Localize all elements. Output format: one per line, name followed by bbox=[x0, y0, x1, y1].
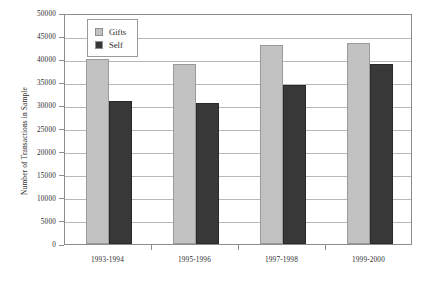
bar-gifts bbox=[173, 64, 196, 244]
legend-label-gifts: Gifts bbox=[109, 27, 126, 37]
y-axis-tick-label: 5000 bbox=[0, 218, 56, 226]
bar-group bbox=[171, 15, 221, 244]
y-axis-tick-label: 35000 bbox=[0, 79, 56, 87]
legend-swatch-self bbox=[95, 41, 103, 49]
x-axis-tick-label: 1993-1994 bbox=[58, 256, 158, 264]
y-axis-tick-label: 10000 bbox=[0, 195, 56, 203]
y-axis-tick-label: 0 bbox=[0, 241, 56, 249]
y-axis-tick-label: 50000 bbox=[0, 10, 56, 18]
y-axis-tick-label: 15000 bbox=[0, 172, 56, 180]
legend-item-self: Self bbox=[95, 38, 126, 51]
legend-swatch-gifts bbox=[95, 28, 103, 36]
bar-group bbox=[258, 15, 308, 244]
y-axis-tick-label: 20000 bbox=[0, 149, 56, 157]
bar-self bbox=[283, 85, 306, 244]
bar-gifts bbox=[260, 45, 283, 244]
y-axis-tick-label: 25000 bbox=[0, 126, 56, 134]
legend-item-gifts: Gifts bbox=[95, 25, 126, 38]
y-axis-tick-label: 40000 bbox=[0, 56, 56, 64]
legend-label-self: Self bbox=[109, 40, 123, 50]
bar-self bbox=[196, 103, 219, 244]
x-axis-tick-label: 1997-1998 bbox=[232, 256, 332, 264]
x-axis-tick-label: 1999-2000 bbox=[319, 256, 419, 264]
chart-legend: Gifts Self bbox=[87, 19, 138, 57]
y-axis-tick-label: 30000 bbox=[0, 102, 56, 110]
plot-area: Gifts Self bbox=[64, 14, 412, 245]
bar-chart: Number of Transactions in Sample 0500010… bbox=[0, 0, 429, 282]
x-axis-tick-mark bbox=[325, 245, 326, 250]
x-axis-tick-mark bbox=[238, 245, 239, 250]
y-axis-title: Number of Transactions in Sample bbox=[16, 0, 32, 282]
x-axis-tick-mark bbox=[151, 245, 152, 250]
bar-gifts bbox=[86, 59, 109, 244]
bar-self bbox=[370, 64, 393, 244]
bar-self bbox=[109, 101, 132, 244]
x-axis-tick-label: 1995-1996 bbox=[145, 256, 245, 264]
y-axis-tick-label: 45000 bbox=[0, 33, 56, 41]
bar-gifts bbox=[347, 43, 370, 244]
bar-group bbox=[345, 15, 395, 244]
